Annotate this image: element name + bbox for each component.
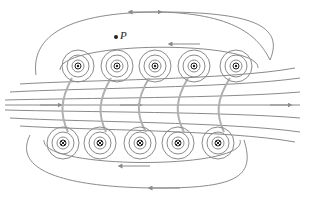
wire-cross-icon <box>215 140 221 146</box>
wire-cross-icon <box>60 140 66 146</box>
wire-cross-icon <box>137 140 143 146</box>
wire-dot-icon <box>191 63 197 69</box>
magnetic-field-diagram <box>0 0 316 200</box>
point-p-marker <box>114 35 118 39</box>
field-lines <box>5 12 300 188</box>
point-p-label: P <box>120 29 127 41</box>
wire-cross-icon <box>175 140 181 146</box>
wire-dot-icon <box>75 63 81 69</box>
wire-dot-icon <box>114 63 120 69</box>
wire-cross-icon <box>97 140 103 146</box>
wire-dot-icon <box>152 63 158 69</box>
wire-dot-icon <box>233 63 239 69</box>
wires-out-of-page <box>75 63 239 69</box>
